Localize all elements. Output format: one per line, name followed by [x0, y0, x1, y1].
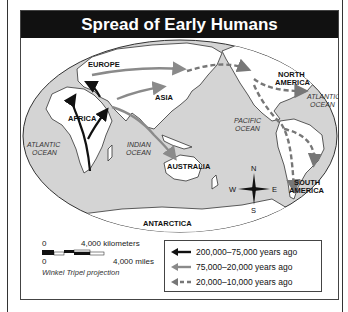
svg-text:S: S	[251, 206, 256, 215]
label-europe: EUROPE	[88, 60, 120, 69]
label-atlantic-west-2: OCEAN	[32, 149, 58, 156]
label-atlantic-west-1: ATLANTIC	[26, 141, 61, 148]
label-indian-1: INDIAN	[127, 141, 152, 148]
label-asia: ASIA	[155, 93, 174, 102]
label-australia: AUSTRALIA	[167, 162, 211, 171]
label-north-america-2: AMERICA	[275, 78, 311, 87]
label-antarctica: ANTARCTICA	[143, 219, 192, 228]
label-pacific-2: OCEAN	[235, 125, 261, 132]
projection-note: Winkel Tripel projection	[37, 268, 167, 277]
svg-text:N: N	[251, 164, 256, 173]
map-scale: 0 4,000 kilometers 0 4,000 miles Winkel …	[37, 239, 167, 277]
scale-mi-zero: 0	[42, 257, 46, 266]
label-indian-2: OCEAN	[126, 149, 152, 156]
world-map: EUROPE ASIA AFRICA AUSTRALIA NORTH AMERI…	[22, 39, 339, 234]
label-south-america-2: AMERICA	[289, 186, 325, 195]
scale-km-label: 4,000 kilometers	[81, 239, 140, 248]
map-legend: 200,000–75,000 years ago 75,000–20,000 y…	[164, 240, 322, 292]
dashed-gray-arrow-icon	[171, 278, 191, 286]
label-atlantic-east-1: ATLANTIC	[306, 93, 339, 100]
label-africa: AFRICA	[68, 114, 97, 123]
svg-text:W: W	[229, 185, 237, 194]
legend-item-20k-10k: 20,000–10,000 years ago	[171, 274, 315, 289]
page-right-rule	[342, 0, 343, 312]
legend-item-75k-20k: 75,000–20,000 years ago	[171, 259, 315, 274]
solid-gray-arrow-icon	[171, 263, 191, 271]
page-left-rule	[7, 0, 8, 312]
scale-km-zero: 0	[42, 239, 46, 248]
map-title: Spread of Early Humans	[21, 11, 338, 38]
label-atlantic-east-2: OCEAN	[310, 101, 336, 108]
legend-item-200k-75k: 200,000–75,000 years ago	[171, 244, 315, 259]
map-figure: Spread of Early Humans	[20, 10, 339, 300]
scale-bar	[37, 249, 167, 257]
label-pacific-1: PACIFIC	[234, 117, 262, 124]
scale-mi-label: 4,000 miles	[113, 257, 154, 266]
solid-black-arrow-icon	[171, 248, 191, 256]
svg-text:E: E	[272, 185, 277, 194]
